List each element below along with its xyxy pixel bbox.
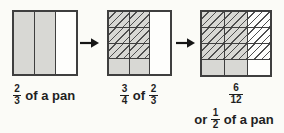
caption-or-one-half-of-a-pan: or 1 2 of a pan: [184, 108, 284, 131]
fraction-numerator: 2: [151, 84, 157, 95]
fraction-numerator: 1: [213, 108, 219, 119]
panel-column: [225, 12, 248, 75]
grid-cell-hatched: [202, 12, 224, 28]
right-arrow-icon: [176, 37, 195, 49]
grid-cell-hatched: [248, 28, 270, 44]
grid-cell-hatched: [248, 44, 270, 60]
fraction-denominator: 12: [229, 94, 243, 106]
fraction-two-thirds: 2 3: [13, 84, 22, 107]
grid-cell: [109, 59, 129, 74]
grid-cell-hatched: [109, 28, 129, 44]
caption-text: of: [133, 88, 145, 103]
panel-column: [109, 12, 130, 74]
panel-column: [56, 12, 76, 74]
fraction-six-twelfths: 6 12: [229, 83, 243, 106]
grid-cell-hatched: [248, 12, 270, 28]
fraction-denominator: 3: [149, 95, 158, 107]
panel-column: [130, 12, 151, 74]
caption-two-thirds-of-a-pan: 2 3 of a pan: [4, 84, 84, 107]
grid-cell: [150, 12, 170, 74]
grid-cell-hatched: [225, 12, 247, 28]
grid-cell-hatched: [202, 44, 224, 60]
grid-cell: [225, 60, 247, 75]
fraction-two-thirds: 2 3: [149, 84, 158, 107]
grid-cell-hatched: [109, 44, 129, 60]
grid-cell-hatched: [225, 28, 247, 44]
right-arrow-icon: [80, 37, 99, 49]
panel-column: [202, 12, 225, 75]
fraction-multiplication-diagram: 2 3 of a pan 3 4 of 2 3 6 12 or 1 2 of a…: [0, 0, 284, 133]
grid-cell: [35, 12, 55, 74]
grid-cell-hatched: [130, 28, 150, 44]
grid-cell: [14, 12, 34, 74]
caption-text: or: [194, 112, 207, 127]
pan-model-six-twelfths: [200, 10, 272, 77]
fraction-denominator: 3: [13, 95, 22, 107]
fraction-numerator: 3: [122, 84, 128, 95]
fraction-one-half: 1 2: [211, 108, 220, 131]
grid-cell: [248, 60, 270, 75]
caption-six-twelfths: 6 12: [200, 83, 272, 106]
grid-cell: [130, 59, 150, 74]
grid-cell-hatched: [202, 28, 224, 44]
grid-cell-hatched: [109, 12, 129, 28]
grid-cell: [56, 12, 76, 74]
panel-column: [35, 12, 56, 74]
caption-text: of a pan: [25, 88, 75, 103]
grid-cell-hatched: [130, 12, 150, 28]
grid-cell-hatched: [130, 44, 150, 60]
caption-text: of a pan: [224, 112, 274, 127]
panel-column: [150, 12, 170, 74]
caption-three-fourths-of-two-thirds: 3 4 of 2 3: [100, 84, 178, 107]
fraction-numerator: 6: [233, 83, 239, 94]
panel-column: [14, 12, 35, 74]
grid-cell-hatched: [225, 44, 247, 60]
fraction-numerator: 2: [14, 84, 20, 95]
grid-cell: [202, 60, 224, 75]
fraction-three-fourths: 3 4: [120, 84, 129, 107]
fraction-denominator: 2: [211, 119, 220, 131]
fraction-denominator: 4: [120, 95, 129, 107]
pan-model-two-thirds: [12, 10, 78, 76]
panel-column: [248, 12, 270, 75]
pan-model-three-fourths-of-two-thirds: [107, 10, 172, 76]
